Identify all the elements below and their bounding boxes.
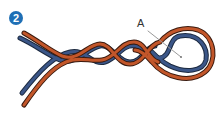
blue-rope	[20, 36, 206, 93]
red-rope	[24, 29, 213, 106]
braided-rope-diagram	[0, 0, 224, 115]
callout-point	[180, 56, 182, 58]
